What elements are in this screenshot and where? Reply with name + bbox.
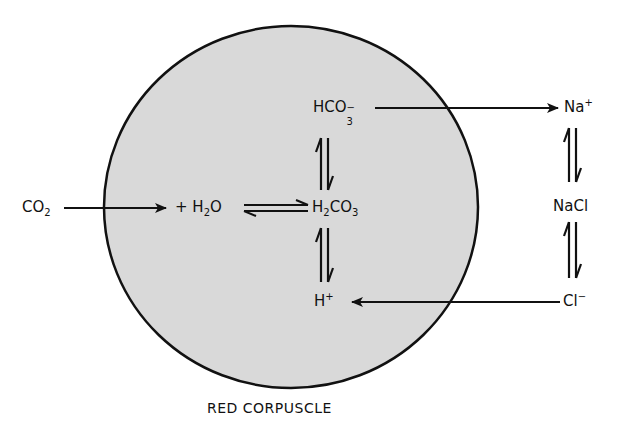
nacl-text: NaCl — [553, 197, 588, 215]
plus-sign: + — [175, 198, 192, 216]
clminus-text: Cl — [563, 292, 578, 310]
h2o-h: H — [192, 198, 203, 216]
label-clminus: Cl− — [563, 292, 586, 310]
clminus-charge: − — [578, 291, 586, 302]
label-h2o: + H2O — [175, 198, 222, 216]
label-hplus: H+ — [314, 292, 334, 310]
equilibrium-nacl-clminus — [564, 222, 581, 278]
naplus-charge: + — [584, 97, 592, 108]
label-co2: CO2 — [22, 198, 51, 216]
co2-subscript: 2 — [44, 207, 50, 218]
h2co3-h: H — [312, 198, 323, 216]
caption-red-corpuscle: RED CORPUSCLE — [207, 400, 332, 416]
label-hco3: HCO−3 — [313, 98, 356, 116]
equilibrium-naplus-nacl — [564, 128, 581, 182]
h2co3-subscript-3: 3 — [352, 207, 358, 218]
hplus-text: H — [314, 292, 325, 310]
co2-text: CO — [22, 198, 44, 216]
label-h2co3: H2CO3 — [312, 198, 358, 216]
diagram-canvas — [0, 0, 626, 437]
naplus-text: Na — [564, 98, 584, 116]
hplus-charge: + — [325, 291, 333, 302]
h2co3-co: CO — [330, 198, 352, 216]
label-nacl: NaCl — [553, 197, 588, 215]
label-naplus: Na+ — [564, 98, 593, 116]
hco3-text: HCO — [313, 98, 347, 116]
h2o-o: O — [210, 198, 222, 216]
